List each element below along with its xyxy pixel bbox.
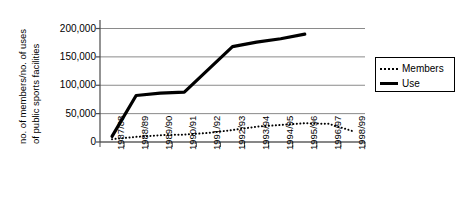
legend-item-members: Members — [380, 61, 450, 76]
solid-line-icon — [380, 79, 398, 89]
x-axis-tick-label: 1989/90 — [164, 116, 174, 150]
x-axis-tick-label: 1988/89 — [140, 116, 150, 150]
chart-container: no. of members/no. of uses of public spo… — [0, 0, 464, 198]
legend-label-use: Use — [402, 79, 420, 89]
x-axis-tick-label: 1993/94 — [261, 116, 271, 150]
legend-label-members: Members — [402, 64, 444, 74]
x-axis-tick-label: 1996/97 — [333, 116, 343, 150]
legend-item-use: Use — [380, 76, 450, 91]
x-axis-tick-label: 1994/95 — [285, 116, 295, 150]
x-axis-tick-label: 1991/92 — [212, 116, 222, 150]
chart-legend: Members Use — [375, 57, 455, 92]
plot-area — [0, 0, 464, 198]
x-axis-tick-label: 1998/99 — [357, 116, 367, 150]
dotted-line-icon — [380, 64, 398, 74]
x-axis-tick-label: 1990/91 — [188, 116, 198, 150]
x-axis-tick-label: 1995/96 — [309, 116, 319, 150]
x-axis-tick-label: 1992/93 — [237, 116, 247, 150]
x-axis-tick-label: 1987/88 — [116, 116, 126, 150]
